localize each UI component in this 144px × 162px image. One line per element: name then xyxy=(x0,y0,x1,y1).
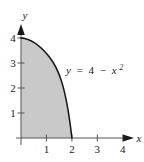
figure-container: 1 2 3 4 1 2 3 4 y x y = 4 − x 2 xyxy=(0,0,144,162)
equation-x: x xyxy=(111,64,117,76)
y-axis-arrowhead xyxy=(17,24,25,35)
equation-four: 4 xyxy=(89,64,95,76)
y-tick-label-3: 3 xyxy=(10,57,16,69)
y-tick-label-2: 2 xyxy=(10,82,16,94)
x-tick-label-3: 3 xyxy=(95,143,101,155)
equation-equals: = xyxy=(77,64,83,76)
x-tick-label-1: 1 xyxy=(44,143,50,155)
x-tick-label-2: 2 xyxy=(69,143,75,155)
equation-minus: − xyxy=(100,64,106,76)
svg-text:y = 4: y = 4 − x 2 xyxy=(65,63,123,76)
equation-exponent: 2 xyxy=(119,63,123,72)
equation-y: y xyxy=(65,64,71,76)
x-axis-arrowhead xyxy=(123,134,134,141)
parabola-plot: 1 2 3 4 1 2 3 4 y x y = 4 − x 2 xyxy=(0,0,144,162)
x-axis-label: x xyxy=(136,132,142,144)
curve-equation-label: y = 4 − x 2 xyxy=(65,63,123,76)
x-tick-label-4: 4 xyxy=(120,143,126,155)
y-tick-label-1: 1 xyxy=(10,107,16,119)
y-tick-label-4: 4 xyxy=(10,32,16,44)
y-axis-label: y xyxy=(22,9,28,21)
